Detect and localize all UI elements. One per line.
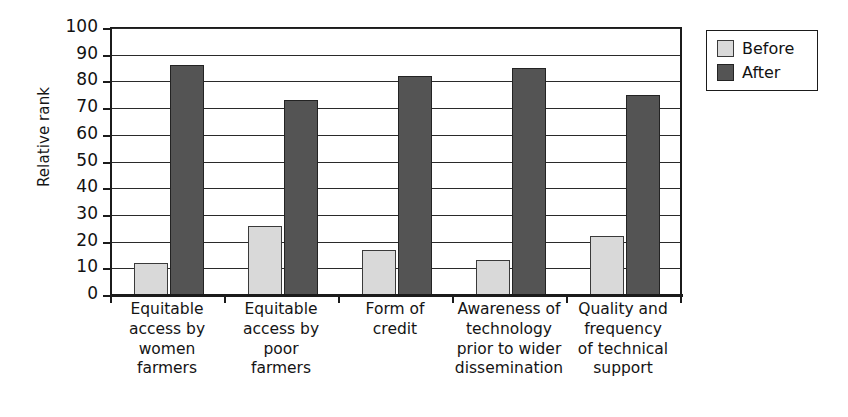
category-label-line: Form of (338, 300, 452, 320)
plot-right-border (680, 27, 682, 295)
legend-swatch-icon (717, 64, 734, 81)
category-label: Equitableaccess bywomenfarmers (110, 300, 224, 379)
category-label: Awareness oftechnologyprior to widerdiss… (452, 300, 566, 379)
bar-after-5 (626, 95, 660, 295)
bar-after-4 (512, 68, 546, 295)
category-label-line: access by (110, 320, 224, 340)
bar-chart: Relative rank 1009080706050403020100 Equ… (0, 0, 848, 417)
legend-item-after[interactable]: After (717, 64, 809, 81)
category-label-line: Awareness of (452, 300, 566, 320)
category-label-line: dissemination (452, 359, 566, 379)
x-axis-tick (680, 294, 682, 303)
y-axis-tick (103, 162, 112, 164)
category-label-line: poor (224, 340, 338, 360)
y-axis-tick-label: 20 (58, 232, 98, 249)
category-label-line: Equitable (224, 300, 338, 320)
y-axis-tick-label: 60 (58, 125, 98, 142)
gridline (112, 55, 682, 56)
y-axis-tick-label: 90 (58, 45, 98, 62)
bar-after-2 (284, 100, 318, 295)
category-label: Equitableaccess bypoorfarmers (224, 300, 338, 379)
bar-before-4 (476, 260, 510, 295)
y-axis-tick (103, 108, 112, 110)
y-axis-tick-label: 50 (58, 152, 98, 169)
y-axis-tick (103, 81, 112, 83)
y-axis-tick-label: 10 (58, 258, 98, 275)
y-axis-tick-label: 40 (58, 178, 98, 195)
legend-swatch-icon (717, 40, 734, 57)
y-axis-tick (103, 135, 112, 137)
bar-after-3 (398, 76, 432, 295)
y-axis-tick-label: 0 (58, 285, 98, 302)
y-axis-tick-label: 70 (58, 98, 98, 115)
y-axis-tick (103, 28, 112, 30)
category-label-line: of technical (566, 340, 680, 360)
category-label: Quality andfrequencyof technicalsupport (566, 300, 680, 379)
category-label-line: support (566, 359, 680, 379)
category-label-line: credit (338, 320, 452, 340)
category-label-line: access by (224, 320, 338, 340)
category-label-line: farmers (110, 359, 224, 379)
y-axis-tick-labels: 1009080706050403020100 (52, 0, 98, 417)
gridline (112, 28, 682, 29)
bar-before-5 (590, 236, 624, 295)
x-axis-line (110, 294, 683, 297)
bar-before-1 (134, 263, 168, 295)
bar-before-2 (248, 226, 282, 295)
x-axis-category-labels: Equitableaccess bywomenfarmersEquitablea… (110, 300, 680, 417)
y-axis-tick-label: 80 (58, 71, 98, 88)
y-axis-tick (103, 268, 112, 270)
category-label-line: frequency (566, 320, 680, 340)
y-axis-tick-label: 100 (58, 18, 98, 35)
y-axis-tick-label: 30 (58, 205, 98, 222)
bar-after-1 (170, 65, 204, 295)
legend-label: Before (742, 41, 794, 57)
plot-area (110, 27, 682, 295)
category-label-line: Equitable (110, 300, 224, 320)
y-axis-title: Relative rank (35, 17, 53, 257)
category-label-line: women (110, 340, 224, 360)
y-axis-tick (103, 188, 112, 190)
category-label: Form ofcredit (338, 300, 452, 340)
category-label-line: Quality and (566, 300, 680, 320)
legend-item-before[interactable]: Before (717, 40, 809, 57)
category-label-line: technology (452, 320, 566, 340)
category-label-line: farmers (224, 359, 338, 379)
category-label-line: prior to wider (452, 340, 566, 360)
legend: BeforeAfter (706, 30, 818, 91)
y-axis-tick (103, 215, 112, 217)
bar-before-3 (362, 250, 396, 295)
y-axis-tick (103, 242, 112, 244)
legend-label: After (742, 65, 780, 81)
y-axis-tick (103, 55, 112, 57)
